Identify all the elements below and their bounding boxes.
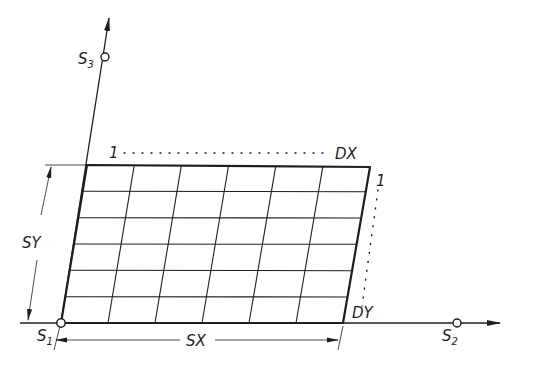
s2-node xyxy=(453,319,461,327)
top-left-one-label: 1 xyxy=(109,144,119,162)
grid-lines xyxy=(65,165,365,323)
sy-dimension-upper xyxy=(41,167,51,215)
s1-label: S1 xyxy=(37,327,53,347)
sy-dimension-lower xyxy=(28,260,37,320)
s1-node xyxy=(57,319,65,327)
diagram-canvas: S3 S1 S2 1 DX 1 DY SX SY xyxy=(0,0,533,386)
dx-label: DX xyxy=(335,145,358,163)
sx-extension-left xyxy=(54,326,60,350)
sx-label: SX xyxy=(186,332,207,350)
sy-label: SY xyxy=(22,234,43,252)
dy-label: DY xyxy=(352,304,375,322)
s3-label: S3 xyxy=(78,50,94,70)
dy-dotted-line xyxy=(362,190,378,306)
s3-node xyxy=(101,53,109,61)
s2-label: S2 xyxy=(442,327,458,347)
sx-extension-right xyxy=(338,326,343,350)
right-one-label: 1 xyxy=(376,172,386,190)
